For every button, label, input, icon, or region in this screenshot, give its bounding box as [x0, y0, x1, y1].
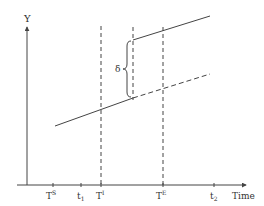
tick-label-TS: TS: [46, 189, 56, 201]
diagram-canvas: Y Time TS t1 TI TE t2 δ: [0, 0, 264, 206]
pre-trend-line: [55, 98, 133, 126]
delta-label: δ: [115, 64, 120, 74]
y-axis-label: Y: [23, 13, 31, 24]
tick-label-t1: t1: [77, 191, 84, 202]
delta-brace: [123, 41, 131, 97]
tick-label-t2: t2: [210, 191, 218, 202]
post-shift-line: [133, 16, 210, 40]
tick-label-TI: TI: [96, 189, 105, 201]
tick-label-TE: TE: [156, 189, 166, 201]
x-axis-label: Time: [232, 191, 255, 201]
counterfactual-dashed-line: [133, 74, 210, 98]
